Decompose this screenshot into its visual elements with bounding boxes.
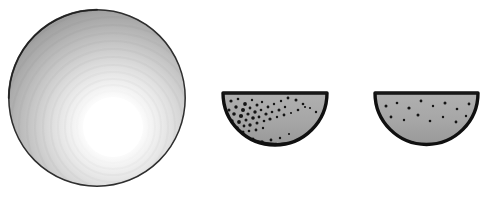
bowl-dense-body <box>223 93 327 145</box>
bowl-sparse-body <box>375 93 478 145</box>
sphere-panel <box>0 9 231 197</box>
figure-root: Scientific figure: a large radially shad… <box>0 0 496 197</box>
figure-canvas <box>0 0 496 197</box>
bowl-dense-panel <box>223 93 327 150</box>
sphere-highlight-core <box>83 97 143 157</box>
bowl-sparse-panel <box>375 93 478 150</box>
